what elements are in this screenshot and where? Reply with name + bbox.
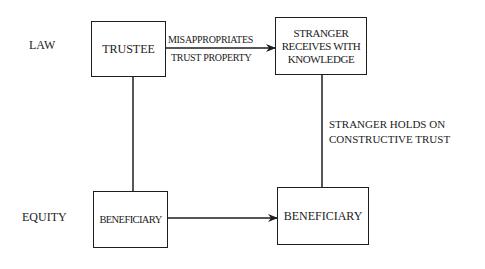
beneficiary-box-left: BENEFICIARY xyxy=(93,191,168,248)
row-label-equity: EQUITY xyxy=(22,210,67,225)
arrow-label-below: TRUST PROPERTY xyxy=(171,52,251,63)
stranger-label-line-1: STRANGER xyxy=(282,27,361,40)
trustee-label: TRUSTEE xyxy=(102,43,155,56)
arrow-label-above: MISAPPROPRIATES xyxy=(168,34,253,45)
stranger-label-line-3: KNOWLEDGE xyxy=(282,53,361,66)
trustee-box: TRUSTEE xyxy=(91,21,166,77)
stranger-label-line-2: RECEIVES WITH xyxy=(282,40,361,53)
stranger-box: STRANGER RECEIVES WITH KNOWLEDGE xyxy=(275,17,367,75)
row-label-law: LAW xyxy=(29,38,55,53)
annotation-line-1: STRANGER HOLDS ON xyxy=(329,117,450,132)
beneficiary-box-right: BENEFICIARY xyxy=(277,187,369,245)
constructive-trust-annotation: STRANGER HOLDS ON CONSTRUCTIVE TRUST xyxy=(329,117,450,147)
beneficiary-right-label: BENEFICIARY xyxy=(284,210,363,223)
annotation-line-2: CONSTRUCTIVE TRUST xyxy=(329,132,450,147)
beneficiary-left-label: BENEFICIARY xyxy=(99,213,161,226)
